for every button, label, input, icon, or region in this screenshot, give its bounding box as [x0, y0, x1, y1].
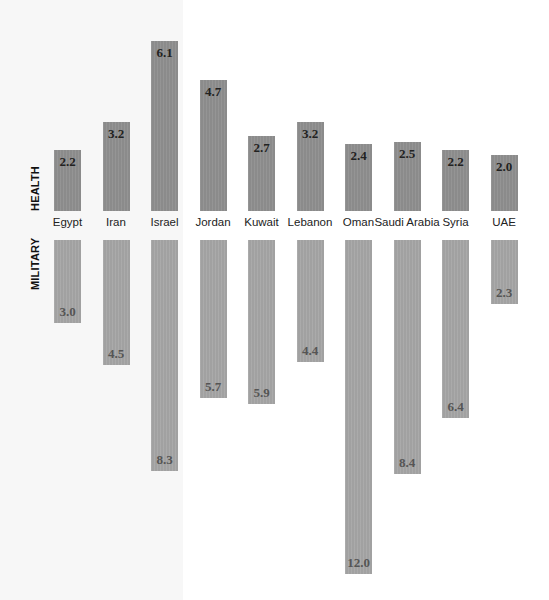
military-value: 3.0	[54, 304, 81, 320]
health-bar: 3.2	[103, 122, 130, 211]
military-bar: 5.9	[248, 240, 275, 404]
military-value: 8.4	[394, 455, 421, 471]
health-axis-label: HEALTH	[29, 166, 41, 211]
military-value: 4.5	[103, 346, 130, 362]
military-axis-label: MILITARY	[29, 238, 41, 290]
health-value: 3.2	[103, 126, 130, 142]
health-bar: 2.5	[394, 142, 421, 212]
health-bar: 2.4	[345, 144, 372, 211]
health-value: 2.2	[442, 154, 469, 170]
military-bar: 5.7	[200, 240, 227, 398]
health-value: 3.2	[297, 126, 324, 142]
health-bar: 2.0	[491, 155, 518, 211]
military-value: 8.3	[151, 452, 178, 468]
military-value: 5.7	[200, 379, 227, 395]
military-bar: 3.0	[54, 240, 81, 323]
military-value: 2.3	[491, 285, 518, 301]
military-bar: 2.3	[491, 240, 518, 304]
health-value: 2.5	[394, 146, 421, 162]
health-value: 2.7	[248, 140, 275, 156]
military-value: 4.4	[297, 343, 324, 359]
military-bar: 6.4	[442, 240, 469, 418]
military-bar: 4.5	[103, 240, 130, 365]
health-bar: 3.2	[297, 122, 324, 211]
military-bar: 8.4	[394, 240, 421, 474]
health-bar: 2.7	[248, 136, 275, 211]
military-bar: 4.4	[297, 240, 324, 362]
health-bar: 2.2	[54, 150, 81, 211]
health-value: 6.1	[151, 45, 178, 61]
health-value: 2.0	[491, 159, 518, 175]
category-label: UAE	[464, 216, 544, 228]
health-value: 4.7	[200, 84, 227, 100]
health-bar: 2.2	[442, 150, 469, 211]
health-bar: 4.7	[200, 80, 227, 211]
military-bar: 8.3	[151, 240, 178, 471]
military-bar: 12.0	[345, 240, 372, 574]
health-value: 2.4	[345, 148, 372, 164]
military-value: 12.0	[345, 555, 372, 571]
military-value: 5.9	[248, 385, 275, 401]
health-bar: 6.1	[151, 41, 178, 211]
health-value: 2.2	[54, 154, 81, 170]
military-value: 6.4	[442, 399, 469, 415]
